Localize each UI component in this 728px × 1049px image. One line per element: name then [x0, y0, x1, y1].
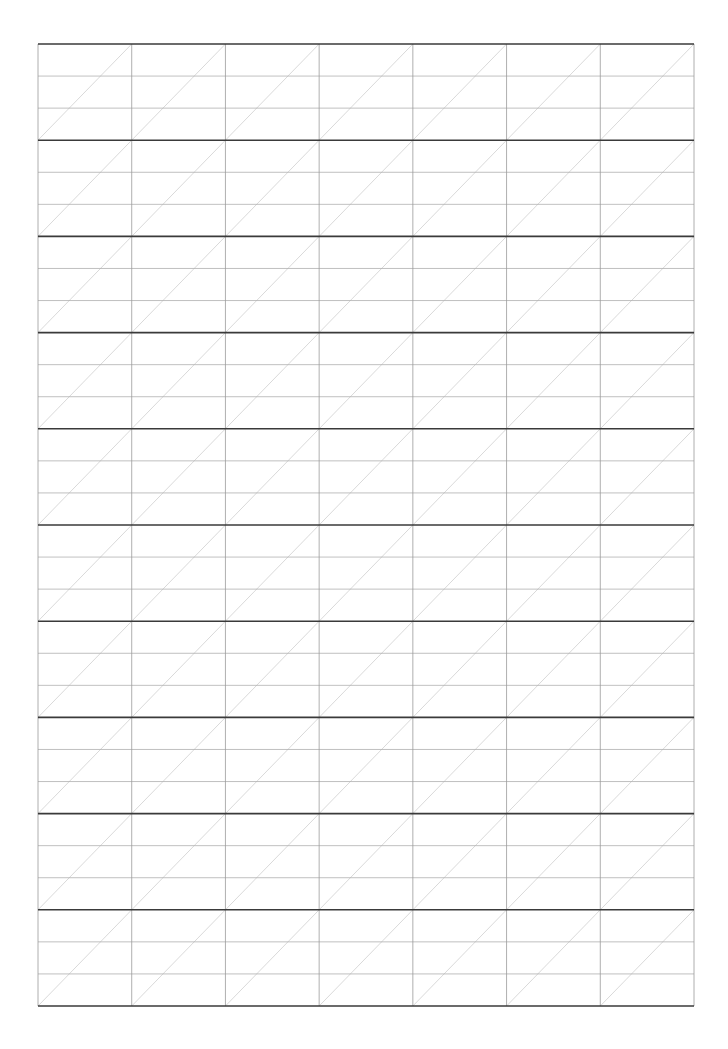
cell-diagonal: [225, 333, 319, 429]
cell-diagonal: [225, 910, 319, 1006]
cell-diagonal: [132, 429, 226, 525]
cell-diagonal: [600, 814, 694, 910]
cell-diagonal: [225, 717, 319, 813]
cell-diagonal: [600, 140, 694, 236]
cell-diagonal: [600, 44, 694, 140]
cell-diagonal: [132, 621, 226, 717]
cell-diagonal: [413, 236, 507, 332]
cell-diagonal: [413, 717, 507, 813]
cell-diagonal: [507, 236, 601, 332]
cell-diagonal: [38, 717, 132, 813]
cell-diagonal: [319, 236, 413, 332]
cell-diagonal: [38, 429, 132, 525]
cell-diagonal: [132, 44, 226, 140]
writing-grid: [0, 0, 728, 1049]
cell-diagonal: [319, 910, 413, 1006]
cell-diagonal: [413, 621, 507, 717]
cell-diagonal: [132, 140, 226, 236]
cell-diagonal: [600, 717, 694, 813]
cell-diagonal: [38, 236, 132, 332]
cell-diagonal: [507, 429, 601, 525]
cell-diagonal: [225, 621, 319, 717]
cell-diagonal: [319, 140, 413, 236]
cell-diagonal: [600, 621, 694, 717]
cell-diagonal: [132, 236, 226, 332]
cell-diagonal: [319, 717, 413, 813]
cell-diagonal: [413, 525, 507, 621]
cell-diagonal: [507, 525, 601, 621]
cell-diagonal: [413, 910, 507, 1006]
cell-diagonal: [38, 910, 132, 1006]
cell-diagonal: [507, 621, 601, 717]
cell-diagonal: [319, 621, 413, 717]
practice-sheet: [0, 0, 728, 1049]
cell-diagonal: [600, 525, 694, 621]
cell-diagonal: [600, 910, 694, 1006]
cell-diagonal: [319, 525, 413, 621]
cell-diagonal: [507, 140, 601, 236]
cell-diagonal: [38, 140, 132, 236]
cell-diagonal: [507, 333, 601, 429]
cell-diagonal: [319, 814, 413, 910]
cell-diagonal: [600, 429, 694, 525]
cell-diagonal: [132, 525, 226, 621]
cell-diagonal: [507, 717, 601, 813]
cell-diagonal: [38, 621, 132, 717]
cell-diagonal: [225, 525, 319, 621]
cell-diagonal: [507, 910, 601, 1006]
cell-diagonal: [413, 429, 507, 525]
cell-diagonal: [507, 44, 601, 140]
cell-diagonal: [319, 44, 413, 140]
cell-diagonal: [413, 814, 507, 910]
cell-diagonal: [38, 333, 132, 429]
cell-diagonal: [38, 525, 132, 621]
cell-diagonal: [225, 814, 319, 910]
cell-diagonal: [413, 333, 507, 429]
cell-diagonal: [132, 333, 226, 429]
cell-diagonal: [413, 140, 507, 236]
cell-diagonal: [132, 717, 226, 813]
cell-diagonal: [38, 814, 132, 910]
cell-diagonal: [38, 44, 132, 140]
cell-diagonal: [225, 236, 319, 332]
cell-diagonal: [600, 236, 694, 332]
cell-diagonal: [225, 429, 319, 525]
cell-diagonal: [319, 333, 413, 429]
cell-diagonal: [600, 333, 694, 429]
cell-diagonal: [413, 44, 507, 140]
cell-diagonal: [225, 44, 319, 140]
cell-diagonal: [225, 140, 319, 236]
cell-diagonal: [132, 910, 226, 1006]
cell-diagonal: [132, 814, 226, 910]
cell-diagonal: [507, 814, 601, 910]
cell-diagonal: [319, 429, 413, 525]
